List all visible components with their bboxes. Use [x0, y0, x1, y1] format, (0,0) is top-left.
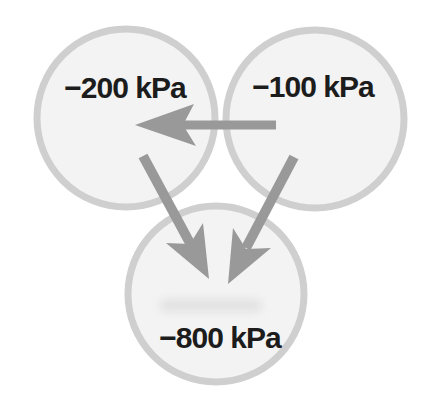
pressure-label-top-left: −200 kPa [64, 71, 185, 105]
cell-circle-bottom [128, 206, 304, 382]
pressure-label-top-right: −100 kPa [252, 70, 373, 104]
cell-circle-top-left [37, 29, 215, 207]
cell-circle-top-right [226, 30, 404, 208]
pressure-label-bottom: −800 kPa [159, 321, 280, 355]
figure-canvas: −200 kPa −100 kPa −800 kPa [0, 0, 424, 400]
scan-smudge-artifact [160, 299, 262, 312]
